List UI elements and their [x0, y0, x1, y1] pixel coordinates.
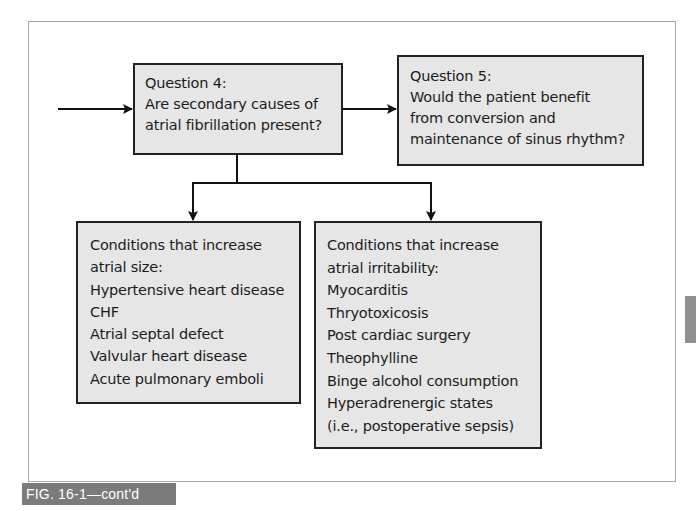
question-4-text-line: atrial fibrillation present?	[145, 115, 341, 136]
condition-item: Valvular heart disease	[90, 345, 299, 367]
condition-item: Post cardiac surgery	[327, 324, 540, 347]
condition-item: Binge alcohol consumption	[327, 370, 540, 393]
atrial-size-heading: Conditions that increase	[90, 234, 299, 256]
condition-item: Theophylline	[327, 347, 540, 370]
question-5-title: Question 5:	[410, 66, 642, 87]
question-5-text-line: Would the patient benefit	[410, 87, 642, 108]
page-edge-tab	[685, 296, 696, 343]
condition-item: Hyperadrenergic states	[327, 392, 540, 415]
condition-item: Atrial septal defect	[90, 323, 299, 345]
figure-caption: FIG. 16-1—cont'd	[22, 483, 176, 505]
condition-item: Hypertensive heart disease	[90, 279, 299, 301]
question-5-box: Question 5: Would the patient benefit fr…	[397, 55, 644, 166]
question-4-title: Question 4:	[145, 73, 341, 94]
atrial-size-heading: atrial size:	[90, 256, 299, 278]
question-5-text-line: maintenance of sinus rhythm?	[410, 129, 642, 150]
question-4-text-line: Are secondary causes of	[145, 94, 341, 115]
condition-item: Myocarditis	[327, 279, 540, 302]
condition-item: CHF	[90, 301, 299, 323]
question-5-text-line: from conversion and	[410, 108, 642, 129]
condition-item: Thryotoxicosis	[327, 302, 540, 325]
atrial-irritability-conditions-box: Conditions that increase atrial irritabi…	[314, 221, 542, 449]
condition-item: (i.e., postoperative sepsis)	[327, 415, 540, 438]
condition-item: Acute pulmonary emboli	[90, 368, 299, 390]
atrial-size-conditions-box: Conditions that increase atrial size: Hy…	[76, 221, 301, 404]
question-4-box: Question 4: Are secondary causes of atri…	[133, 63, 343, 155]
atrial-irritability-heading: Conditions that increase	[327, 234, 540, 257]
atrial-irritability-heading: atrial irritability:	[327, 257, 540, 280]
